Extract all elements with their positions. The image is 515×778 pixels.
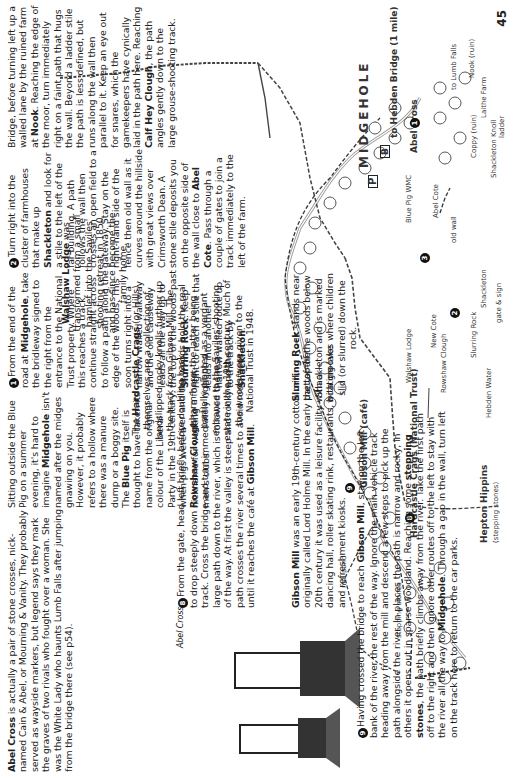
map-label-rowshaw-clough: Rowshaw Clough — [440, 334, 448, 393]
map-label-laithe-farm: Laithe Farm — [480, 77, 488, 118]
slurring-rock-text: Slurring Rock stands near the top of the… — [290, 273, 358, 403]
bus-stop-icon: B — [380, 145, 390, 158]
step-9-marker: 9 — [358, 728, 368, 738]
step-1-marker: 1 — [9, 378, 19, 388]
step-9-text: 9Having crossed the bridge to reach Gibs… — [355, 408, 459, 738]
map-label-old-wall: old wall — [450, 216, 458, 243]
map-label-shackleton: Shackleton — [480, 269, 488, 308]
map-label-new-cote: New Cote — [430, 314, 438, 348]
parking-icon: P — [368, 175, 378, 188]
step-2-text: 2Turn right into the cluster of farmhous… — [6, 148, 247, 268]
step-2-bold: Shackleton — [42, 210, 53, 268]
step-1-text-part: . — [236, 327, 247, 330]
intro-text-part: . Reaching the edge of the moor, turn im… — [29, 6, 143, 148]
abel-cross-text: Abel Cross is actually a pair of stone c… — [6, 502, 74, 772]
map-label-walshaw-lodge: Walshaw Lodge — [405, 329, 413, 383]
blue-pig-text-part: isn't named after the midges gnawing on … — [40, 392, 131, 508]
step-1-bold: Midgehole — [19, 298, 30, 352]
step-9-bold: Midgehole — [436, 577, 447, 631]
waypoint-3-marker: 3 — [420, 253, 430, 263]
intro-continued-text: Bridge, before turning left up a walled … — [6, 3, 177, 148]
blue-pig-bold: Blue Pig — [120, 445, 131, 488]
step-8-marker: 8 — [178, 598, 188, 608]
step-1-text-part: , take the bridleway signed to the right… — [19, 270, 178, 388]
map-label-hebden-water: Hebden Water — [485, 368, 493, 418]
blue-pig-bold: Midgehole — [40, 414, 51, 468]
blue-pig-text-part: itself is thought to have taken its name… — [120, 390, 211, 508]
map-label-hepton-hippins-sub: (stepping stones) — [492, 482, 500, 543]
step-9-text-part: Having crossed the bridge to reach — [355, 563, 366, 727]
map-label-slurring-rock: Slurring Rock — [470, 312, 478, 358]
step-2-text-part: and look for a stile to the left of the … — [42, 149, 201, 268]
waypoint-2-marker: 2 — [450, 308, 460, 318]
waypoint-1-marker: 1 — [410, 118, 420, 128]
map-label-blue-pig-wmc: Blue Pig WMC — [405, 175, 413, 223]
intro-bold: Calf Hey Clough — [143, 66, 154, 148]
gibson-mill-heading: Gibson Mill — [290, 551, 301, 608]
map-label-abel-cote: Abel Cote — [432, 184, 440, 218]
step-2-marker: 2 — [9, 258, 19, 268]
guidebook-page: to Lumb Falls Nook (ruin) Laithe Farm la… — [0, 0, 515, 778]
step-9-bold: Gibson Mill — [355, 505, 366, 562]
step-1-bold: Shackleton — [236, 330, 247, 388]
blue-pig-text: Sitting outside the Blue Pig on a summer… — [6, 390, 211, 508]
abel-cross-heading: Abel Cross — [6, 717, 17, 772]
map-label-gate-sign: gate & sign — [495, 283, 503, 323]
map-label-hepton-hippins: Hepton Hippins — [480, 465, 488, 543]
page-number: 45 — [495, 10, 509, 27]
step-2-text-part: Turn right into the cluster of farmhouse… — [6, 168, 41, 268]
map-label-to-hebden-bridge: to Hebden Bridge (1 mile) — [390, 6, 398, 138]
step-1-text: 1From the end of the road at Midgehole, … — [6, 270, 247, 388]
slurring-rock-heading: Slurring Rock — [290, 332, 301, 402]
map-label-ladder: ladder — [498, 116, 506, 138]
abel-cross-drawing — [235, 628, 360, 768]
step-1-bold: Slurring Rock — [179, 318, 190, 388]
map-label-coppy: Coppy (ruin) — [470, 114, 478, 158]
map-label-nook: Nook (ruin) — [468, 39, 476, 78]
intro-bold: Nook — [29, 109, 40, 136]
map-label-shackleton-knoll: Shackleton Knoll — [490, 120, 498, 178]
map-label-midgehole: MIDGEHOLE — [360, 60, 368, 168]
map-label-to-lumb-falls: to Lumb Falls — [450, 44, 458, 90]
